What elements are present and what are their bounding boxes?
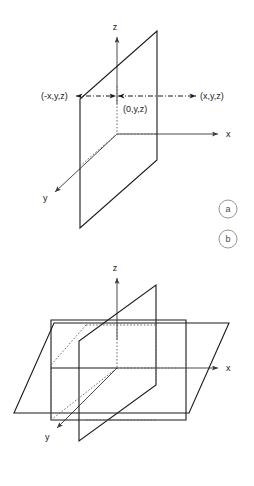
panel-b-plane-2 bbox=[51, 320, 186, 420]
diagram-canvas: (-x,y,z) (0,y,z) (x,y,z) z x y a b bbox=[0, 0, 254, 486]
panel-a-left-point-label: (-x,y,z) bbox=[41, 91, 68, 101]
panel-a-z-axis-label: z bbox=[113, 22, 118, 32]
panel-a-y-axis bbox=[55, 134, 117, 192]
panel-a-x-axis-label: x bbox=[226, 129, 231, 139]
panel-a-tag-label: a bbox=[225, 204, 230, 214]
panel-b-z-axis-label: z bbox=[113, 263, 118, 273]
panel-a: (-x,y,z) (0,y,z) (x,y,z) z x y a bbox=[41, 22, 237, 228]
panel-a-right-point-label: (x,y,z) bbox=[200, 91, 224, 101]
panel-a-mirror-plane bbox=[80, 31, 157, 228]
panel-b-tag-label: b bbox=[225, 234, 230, 244]
panel-b-y-axis-label: y bbox=[45, 432, 50, 442]
panel-b: b z x bbox=[14, 230, 237, 442]
panel-a-hidden-diagonal bbox=[80, 134, 117, 166]
figure-root: (-x,y,z) (0,y,z) (x,y,z) z x y a b bbox=[0, 0, 254, 486]
panel-b-y-axis bbox=[57, 368, 117, 428]
panel-b-hidden-1 bbox=[51, 368, 117, 420]
panel-b-hidden-3 bbox=[51, 325, 86, 365]
panel-a-y-axis-label: y bbox=[43, 193, 48, 203]
panel-a-center-point-label: (0,y,z) bbox=[123, 104, 147, 114]
panel-b-x-axis-label: x bbox=[226, 363, 231, 373]
